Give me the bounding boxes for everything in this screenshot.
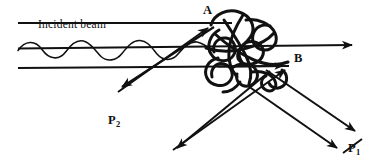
scattered-beam-p1-lower — [248, 86, 337, 148]
incident-ray-to-a — [118, 28, 208, 92]
ray-a-segment — [118, 28, 208, 92]
beam-p1-letter: P — [348, 141, 356, 155]
beam-p1-subscript: 1 — [356, 147, 360, 157]
beam-p2-subscript: 2 — [116, 119, 120, 129]
point-a-label: A — [203, 4, 212, 17]
scattered-beam-p1-upper — [266, 70, 355, 131]
scattered-beam-p1-group — [248, 70, 362, 153]
beam-p2-label: P2 — [108, 114, 120, 127]
point-b-label: B — [294, 52, 302, 65]
point-b-text: B — [294, 51, 302, 65]
beam-p1-label: P1 — [348, 142, 360, 155]
beam-p2-letter: P — [108, 113, 116, 127]
scattering-diagram-figure: Incident beam A B P2 P1 — [0, 0, 384, 168]
incident-beam-label: Incident beam — [38, 19, 106, 31]
incident-wave — [18, 40, 213, 60]
